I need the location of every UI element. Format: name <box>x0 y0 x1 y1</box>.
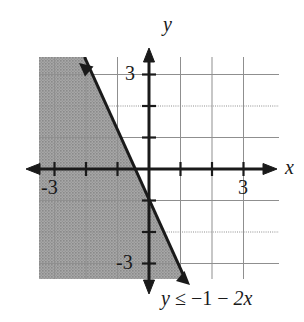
ytick-label-3: 3 <box>125 63 135 83</box>
ytick-label-neg3: -3 <box>116 252 133 272</box>
xtick-label-neg3: -3 <box>41 177 58 197</box>
graph-svg <box>0 0 304 322</box>
y-axis-bottom-arrow <box>144 280 155 294</box>
x-axis-right-arrow <box>263 164 277 175</box>
y-axis-top-arrow <box>144 48 155 62</box>
x-axis-left-arrow <box>26 164 40 175</box>
inequality-caption: y ≤ −1 − 2x <box>161 288 252 308</box>
inequality-graph-figure: y x 3 -3 -3 3 y ≤ −1 − 2x <box>0 0 304 322</box>
inequality-term-2x: 2x <box>233 287 252 309</box>
inequality-term-neg1: −1 <box>191 287 212 309</box>
inequality-operator: ≤ <box>175 287 186 309</box>
xtick-label-3: 3 <box>238 177 248 197</box>
x-axis-label: x <box>285 157 294 177</box>
inequality-minus-sign: − <box>217 287 228 309</box>
y-axis-label: y <box>163 14 172 34</box>
inequality-lhs: y <box>161 287 170 309</box>
